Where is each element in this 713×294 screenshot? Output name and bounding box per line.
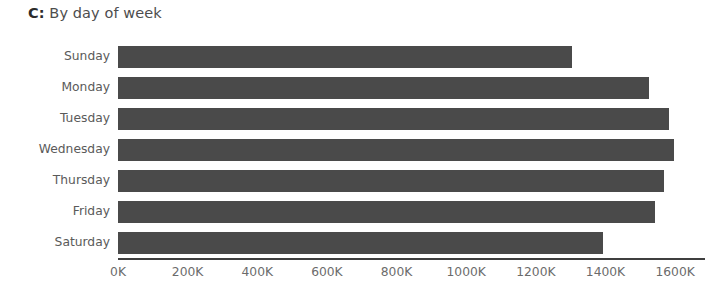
bar-row — [118, 139, 703, 161]
bar-row — [118, 232, 703, 254]
y-axis-category-labels: SundayMondayTuesdayWednesdayThursdayFrid… — [0, 41, 110, 259]
bar-row — [118, 77, 703, 99]
x-tick-label-1000K: 1000K — [447, 265, 486, 279]
x-tick-label-1200K: 1200K — [516, 265, 555, 279]
plot-area — [118, 41, 703, 259]
y-tick-label-monday: Monday — [0, 80, 110, 94]
x-axis-line — [118, 258, 705, 260]
bar-sunday — [118, 46, 572, 68]
bar-tuesday — [118, 108, 669, 130]
x-tick-label-1400K: 1400K — [586, 265, 625, 279]
panel-letter: C: — [28, 5, 45, 21]
x-axis-tick-labels: 0K200K400K600K800K1000K1200K1400K1600K — [0, 265, 713, 285]
y-tick-label-saturday: Saturday — [0, 235, 110, 249]
x-tick-label-200K: 200K — [172, 265, 204, 279]
bar-friday — [118, 201, 655, 223]
y-tick-label-tuesday: Tuesday — [0, 111, 110, 125]
y-tick-label-sunday: Sunday — [0, 49, 110, 63]
x-tick-label-600K: 600K — [311, 265, 343, 279]
bar-thursday — [118, 170, 664, 192]
bar-row — [118, 46, 703, 68]
x-tick-label-400K: 400K — [242, 265, 274, 279]
y-tick-label-wednesday: Wednesday — [0, 142, 110, 156]
x-tick-label-0K: 0K — [110, 265, 126, 279]
chart-figure: C: By day of week SundayMondayTuesdayWed… — [0, 0, 713, 294]
bar-saturday — [118, 232, 603, 254]
chart-title: C: By day of week — [28, 5, 162, 21]
x-tick-label-800K: 800K — [381, 265, 413, 279]
bar-monday — [118, 77, 649, 99]
chart-title-text: By day of week — [45, 5, 162, 21]
bar-wednesday — [118, 139, 674, 161]
x-tick-label-1600K: 1600K — [655, 265, 694, 279]
y-tick-label-thursday: Thursday — [0, 173, 110, 187]
bar-row — [118, 201, 703, 223]
bar-row — [118, 170, 703, 192]
y-tick-label-friday: Friday — [0, 204, 110, 218]
bar-row — [118, 108, 703, 130]
